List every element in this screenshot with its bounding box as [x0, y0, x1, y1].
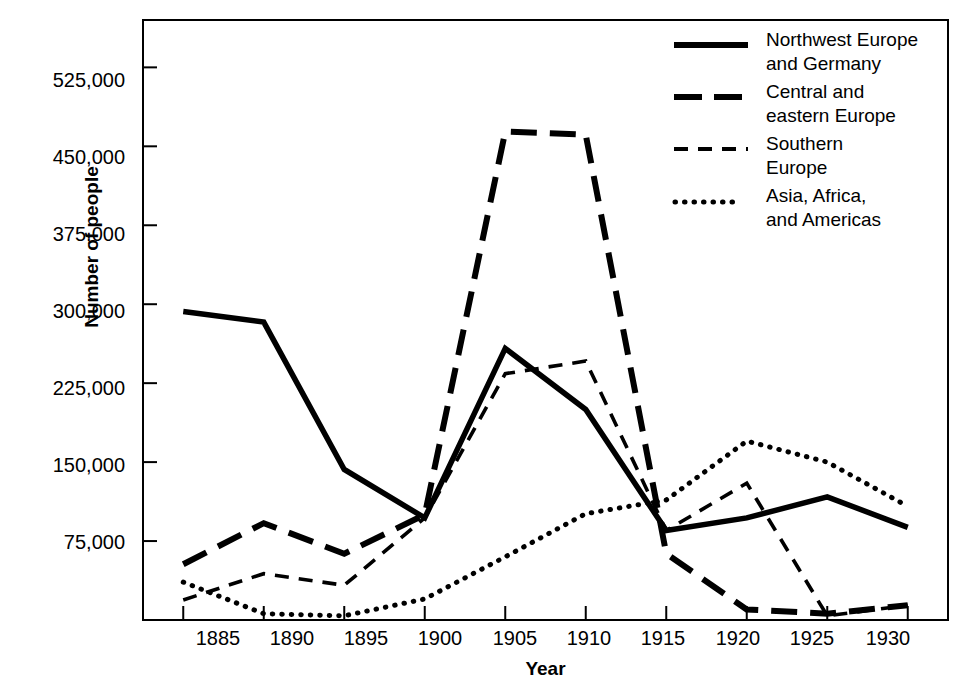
series-line-dotted [183, 441, 908, 616]
series-line-solid [183, 312, 908, 531]
data-series-group [183, 132, 908, 616]
chart-figure: Number of people Year 525,000 450,000 37… [0, 0, 970, 695]
y-axis-ticks [143, 67, 157, 541]
plot-area [0, 0, 970, 695]
series-line-short-dash [183, 361, 908, 616]
